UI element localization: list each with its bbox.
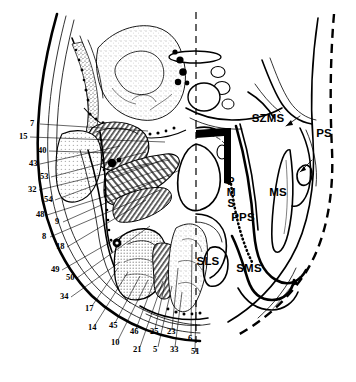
numeric-label: 9 bbox=[55, 216, 59, 226]
numeric-label: 50 bbox=[66, 272, 75, 282]
numeric-label: 7 bbox=[30, 118, 35, 128]
numeric-label: 15 bbox=[19, 131, 28, 141]
numeric-label: 40 bbox=[38, 145, 47, 155]
numeric-label: 32 bbox=[28, 184, 37, 194]
numeric-label: 46 bbox=[130, 326, 139, 336]
numeric-label: 17 bbox=[85, 303, 94, 313]
numeric-label: 53 bbox=[40, 171, 49, 181]
numeric-label: 23 bbox=[167, 326, 176, 336]
right-dashed-skin-contour bbox=[228, 14, 334, 336]
submandibular-gland-region bbox=[113, 224, 210, 326]
figure-canvas: 71540435332544898184950341714 4510462125… bbox=[0, 0, 356, 382]
space-label-pps: PPS bbox=[231, 211, 255, 223]
numeric-label: 6 bbox=[188, 333, 192, 343]
space-label-sls: SLS bbox=[197, 255, 220, 267]
numeric-label: 21 bbox=[133, 344, 142, 354]
space-label-ms: MS bbox=[269, 186, 287, 198]
numeric-label: 18 bbox=[56, 241, 65, 251]
space-label-ps: PS bbox=[316, 127, 332, 139]
anatomical-figure: 71540435332544898184950341714 4510462125… bbox=[0, 0, 356, 382]
space-label-szms: SZMS bbox=[252, 112, 285, 124]
numeric-label: 54 bbox=[44, 194, 53, 204]
numeric-label: 43 bbox=[29, 158, 38, 168]
numeric-label: 5 bbox=[153, 344, 157, 354]
numeric-label: 49 bbox=[51, 264, 60, 274]
pms-stacked-label: PMS bbox=[227, 175, 236, 209]
numeric-label: 33 bbox=[170, 344, 179, 354]
numeric-label: 34 bbox=[60, 291, 69, 301]
numeric-label: 51 bbox=[191, 346, 200, 356]
numeric-label: 45 bbox=[109, 320, 118, 330]
space-label-sms: SMS bbox=[236, 262, 262, 274]
numeric-label: 14 bbox=[88, 322, 97, 332]
leader-line bbox=[95, 272, 128, 325]
numeric-label: 25 bbox=[150, 326, 159, 336]
pms-letter: S bbox=[227, 197, 234, 209]
numeric-label: 8 bbox=[42, 231, 46, 241]
numeric-label: 48 bbox=[36, 209, 45, 219]
numeric-label: 10 bbox=[111, 337, 120, 347]
